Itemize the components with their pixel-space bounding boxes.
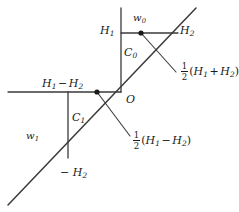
fraction-one-half-sum: 1 2 [181, 62, 188, 81]
label-half-sum: 1 2 (H1+H2) [181, 62, 239, 81]
label-half-diff: 1 2 (H1−H2) [133, 131, 191, 150]
fraction-one-half-diff: 1 2 [133, 131, 140, 150]
math-diagram: H1 w0 H2 C0 1 2 (H1+H2) H1−H2 O C1 w1 1 [0, 0, 239, 212]
label-c0: C0 [124, 47, 137, 60]
label-origin: O [126, 94, 135, 105]
label-c1: C1 [72, 112, 85, 125]
dot-left-marker [94, 89, 99, 94]
diagram-canvas [0, 0, 239, 212]
label-minus-h2: − H2 [60, 167, 87, 180]
label-w0: w0 [133, 13, 146, 25]
leader-line-half-sum [141, 33, 176, 72]
label-h2-top: H2 [180, 25, 195, 38]
label-h1: H1 [100, 25, 115, 38]
label-h1-minus-h2: H1−H2 [42, 78, 83, 91]
dot-w0-marker [138, 30, 143, 35]
label-w1: w1 [26, 131, 39, 143]
